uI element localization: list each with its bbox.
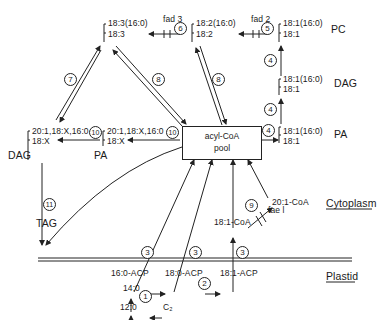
pool-line2: pool <box>183 142 261 154</box>
acyl-coa-pool-box: acyl-CoA pool <box>182 126 262 160</box>
pc-label: PC <box>331 25 346 34</box>
pa-left-species-line1: 20:1,18:X,16:0 <box>107 127 164 136</box>
pc-right-species-line2: 18:1 <box>283 30 300 39</box>
dag-left-label: DAG <box>8 151 31 160</box>
step-9-circle: 9 <box>245 199 258 212</box>
pc-upper-species-line1: 18:3(16:0) <box>108 19 148 28</box>
pa-right-species-line1: 18:1(16:0) <box>283 127 323 136</box>
pc-mid-species-line1: 18:2(16:0) <box>196 19 236 28</box>
c18-1-acp-label: 18:1-ACP <box>220 269 258 278</box>
step-4b-circle: 4 <box>264 103 277 116</box>
c18-acp-label: 18:0-ACP <box>165 269 203 278</box>
step-3a-circle: 3 <box>141 246 154 259</box>
tag-label: TAG <box>36 219 57 228</box>
pa-left-species-line2: 18:X <box>107 137 125 146</box>
c2-label: C₂ <box>163 303 173 312</box>
dag-left-species-line1: 20:1,18:X,16:0 <box>32 127 89 136</box>
dag-right-species-line1: 18:1(16:0) <box>283 75 323 84</box>
fae1-label: fae l <box>268 206 285 215</box>
pa-right-species-line2: 18:1 <box>283 137 300 146</box>
pool-line1: acyl-CoA <box>183 130 261 142</box>
step-7-circle: 7 <box>64 73 77 86</box>
c14-label: 14:0 <box>123 284 140 293</box>
step-4c-circle: 4 <box>262 124 275 137</box>
dag-right-species-line2: 18:1 <box>283 85 300 94</box>
c18-1-coa-label: 18:1-CoA <box>214 218 251 227</box>
c20-1-coa-label: 20:1-CoA <box>272 198 309 207</box>
step-6-circle: 6 <box>174 22 187 35</box>
dag-right-label: DAG <box>334 79 357 88</box>
step-3b-circle: 3 <box>189 246 202 259</box>
step-1-circle: 1 <box>139 290 152 303</box>
step-11-circle: 11 <box>43 198 56 211</box>
dag-left-species-line2: 18:X <box>32 137 50 146</box>
cytoplasm-label: Cytoplasm <box>326 199 377 208</box>
pc-upper-species-line2: 18:3 <box>108 30 125 39</box>
step-4a-circle: 4 <box>264 54 277 67</box>
c12-label: 12:0 <box>120 303 137 312</box>
c16-acp-label: 16:0-ACP <box>111 269 149 278</box>
step-5-circle: 5 <box>261 22 274 35</box>
step-2-circle: 2 <box>198 277 211 290</box>
pc-right-species-line1: 18:1(16:0) <box>283 19 323 28</box>
pa-left-label: PA <box>94 151 107 160</box>
step-10a-circle: 10 <box>89 126 102 139</box>
pc-mid-species-line2: 18:2 <box>196 30 213 39</box>
plastid-label: Plastid <box>326 272 358 281</box>
pa-right-label: PA <box>334 130 347 139</box>
step-3c-circle: 3 <box>236 246 249 259</box>
step-8b-circle: 8 <box>212 73 225 86</box>
step-8a-circle: 8 <box>152 73 165 86</box>
step-10b-circle: 10 <box>166 126 179 139</box>
